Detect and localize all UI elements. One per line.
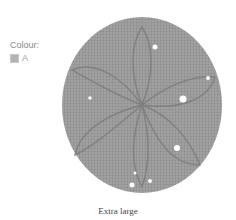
colour-option-a[interactable]: A (10, 53, 28, 63)
colour-swatch (10, 54, 19, 63)
colour-label: Colour: (10, 40, 39, 50)
knitted-beret-image (60, 15, 225, 195)
size-caption: Extra large (0, 206, 236, 216)
colour-option-label: A (22, 53, 28, 63)
